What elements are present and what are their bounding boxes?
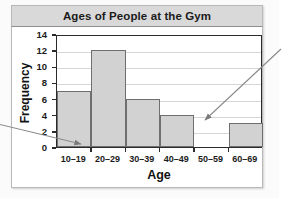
y-tick-label: 0 (25, 142, 47, 153)
x-tick-label: 10–19 (56, 154, 90, 164)
y-tick (52, 147, 56, 148)
y-tick-label: 2 (25, 126, 47, 137)
x-tick-label: 20–29 (90, 154, 124, 164)
y-tick (52, 50, 56, 51)
bar-10-19 (57, 91, 91, 148)
y-tick (52, 115, 56, 116)
y-tick (52, 99, 56, 100)
gridline (57, 68, 261, 69)
gridline (57, 52, 261, 53)
histogram-figure: Ages of People at the Gym Frequency 0246… (0, 0, 279, 198)
bar-60-69 (229, 123, 263, 147)
bar-40-49 (160, 115, 194, 147)
y-tick (52, 67, 56, 68)
x-tick (125, 148, 126, 152)
y-tick-label: 4 (25, 110, 47, 121)
y-tick-label: 14 (25, 29, 47, 40)
y-tick (52, 83, 56, 84)
gridline (57, 84, 261, 85)
page-title: Ages of People at the Gym (63, 10, 211, 22)
x-tick-label: 40–49 (159, 154, 193, 164)
plot-area (56, 35, 262, 148)
y-tick-label: 12 (25, 45, 47, 56)
chart-title-band: Ages of People at the Gym (11, 5, 263, 27)
x-tick-label: 30–39 (125, 154, 159, 164)
y-tick (52, 131, 56, 132)
x-tick (90, 148, 91, 152)
y-tick-label: 8 (25, 77, 47, 88)
x-tick-label: 50–59 (193, 154, 227, 164)
bar-20-29 (91, 50, 125, 147)
x-tick (159, 148, 160, 152)
y-tick-label: 10 (25, 61, 47, 72)
bar-30-39 (126, 99, 160, 147)
x-tick (228, 148, 229, 152)
x-axis-title: Age (56, 168, 262, 182)
x-tick-label: 60–69 (228, 154, 262, 164)
y-tick-label: 6 (25, 94, 47, 105)
x-tick (193, 148, 194, 152)
y-tick (52, 34, 56, 35)
